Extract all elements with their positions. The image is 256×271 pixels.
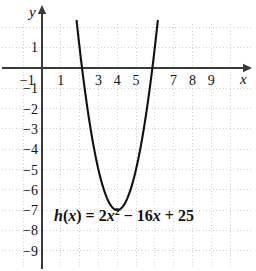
y-tick-label: −8: [23, 224, 38, 238]
y-tick-label: −7: [23, 204, 38, 218]
y-axis-label: y: [29, 5, 36, 20]
y-tick-label: −5: [23, 164, 38, 178]
y-tick-label: −9: [23, 245, 38, 259]
y-tick-label: −6: [23, 184, 38, 198]
y-axis-arrowhead: [38, 5, 46, 14]
equation-annotation: h(x) = 2x2 − 16x + 25: [54, 207, 194, 224]
equation-fn: h: [54, 207, 63, 224]
graph-figure: y x −11345789 1−1−2−3−4−5−6−7−8−9 h(x) =…: [0, 0, 256, 271]
y-tick-label: −2: [23, 103, 38, 117]
y-tick-label: −4: [23, 143, 38, 157]
x-tick-label: 8: [189, 74, 196, 88]
x-tick-label: 3: [95, 74, 102, 88]
parabola-plot: [0, 0, 256, 271]
equation-exponent: 2: [115, 206, 120, 217]
x-tick-label: 9: [208, 74, 215, 88]
parabola-curve: [77, 21, 158, 210]
equation-paren-close: ): [76, 207, 81, 224]
equation-var-b: x: [153, 207, 161, 224]
x-tick-label: 1: [57, 74, 64, 88]
grid-lines: [2, 24, 252, 268]
equation-coef-b: 16: [137, 207, 153, 224]
x-tick-label: 7: [170, 74, 177, 88]
x-tick-label: 4: [114, 74, 121, 88]
parabola-path: [77, 21, 158, 210]
y-tick-label: 1: [31, 41, 38, 55]
x-axis-label: x: [240, 72, 247, 87]
equation-coef-a: 2: [99, 207, 107, 224]
equation-constant: 25: [178, 207, 194, 224]
axes: [2, 5, 252, 269]
y-tick-label: −1: [23, 82, 38, 96]
equation-minus: −: [124, 207, 133, 224]
equation-var-a: x: [107, 207, 115, 224]
equation-equals: =: [86, 207, 95, 224]
x-tick-label: 5: [133, 74, 140, 88]
y-tick-label: −3: [23, 123, 38, 137]
equation-plus: +: [165, 207, 174, 224]
